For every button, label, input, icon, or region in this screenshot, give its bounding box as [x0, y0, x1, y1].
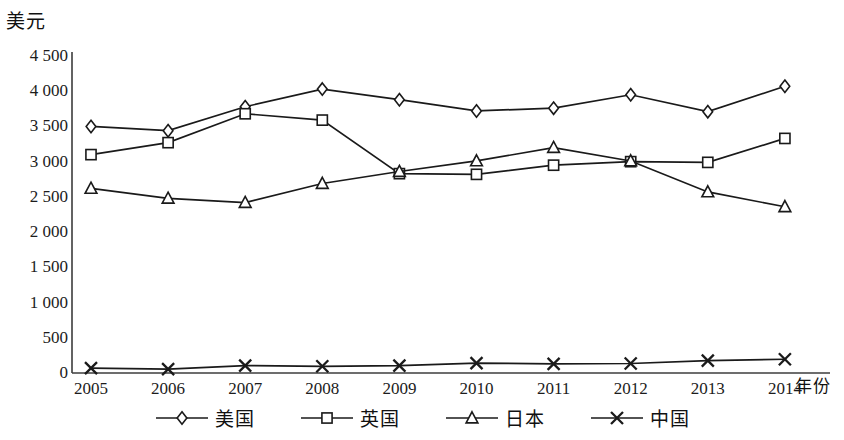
diamond-marker: [626, 89, 636, 101]
axis-lines: [72, 52, 830, 373]
series-line: [91, 359, 785, 369]
legend-item-中国[interactable]: 中国: [589, 404, 690, 431]
x-axis-tick: 2010: [445, 380, 509, 397]
legend-triangle-icon: [444, 408, 500, 428]
legend-item-日本[interactable]: 日本: [444, 404, 545, 431]
x-axis-tick: 2013: [676, 380, 740, 397]
square-marker: [163, 138, 173, 148]
diamond-marker: [317, 83, 327, 95]
square-marker: [317, 115, 327, 125]
square-marker: [703, 157, 713, 167]
legend-item-英国[interactable]: 英国: [299, 404, 400, 431]
x-axis-tick: 2012: [599, 380, 663, 397]
diamond-marker: [703, 105, 713, 117]
square-marker: [780, 133, 790, 143]
square-marker: [240, 109, 250, 119]
legend-label: 日本: [505, 404, 545, 431]
legend-label: 美国: [215, 404, 255, 431]
series-cross: [85, 353, 791, 375]
diamond-marker: [472, 105, 482, 117]
series-triangle: [85, 141, 791, 211]
x-axis-tick: 2006: [136, 380, 200, 397]
diamond-marker: [86, 120, 96, 132]
legend-item-美国[interactable]: 美国: [154, 404, 255, 431]
triangle-marker: [85, 182, 97, 193]
legend-cross-icon: [589, 408, 645, 428]
diamond-marker: [177, 411, 187, 423]
series-layer: [85, 80, 791, 375]
line-chart: 美元 4 5004 0003 5003 0002 5002 0001 5001 …: [0, 0, 844, 440]
diamond-marker: [780, 80, 790, 92]
series-line: [91, 148, 785, 207]
legend-diamond-icon: [154, 408, 210, 428]
diamond-marker: [163, 124, 173, 136]
x-axis-tick: 2011: [522, 380, 586, 397]
square-marker: [322, 412, 332, 422]
x-axis-tick: 2008: [290, 380, 354, 397]
square-marker: [86, 150, 96, 160]
diamond-marker: [395, 93, 405, 105]
series-square: [86, 109, 790, 180]
x-axis-title: 年份: [795, 372, 831, 397]
legend-label: 英国: [360, 404, 400, 431]
legend-square-icon: [299, 408, 355, 428]
chart-legend: 美国英国日本中国: [0, 404, 844, 431]
x-axis-tick: 2009: [367, 380, 431, 397]
series-line: [91, 86, 785, 130]
triangle-marker: [548, 141, 560, 152]
square-marker: [471, 169, 481, 179]
diamond-marker: [549, 102, 559, 114]
x-axis-tick: 2007: [213, 380, 277, 397]
triangle-marker: [702, 186, 714, 197]
legend-label: 中国: [650, 404, 690, 431]
square-marker: [549, 160, 559, 170]
plot-area: [0, 0, 844, 440]
series-diamond: [86, 80, 790, 137]
x-axis-tick: 2005: [59, 380, 123, 397]
